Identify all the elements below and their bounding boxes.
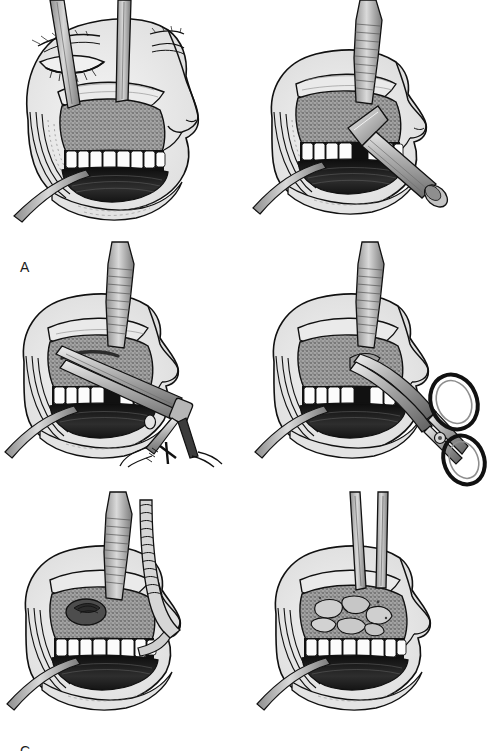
incision-pocket-icon: [66, 599, 106, 625]
panel-d-illustration: [250, 242, 500, 467]
panel-e: E: [0, 492, 250, 742]
panel-c: C: [0, 242, 250, 492]
panel-a: A: [0, 0, 250, 250]
panel-f: F: [250, 492, 500, 742]
retractor-blade-right-icon: [376, 492, 388, 588]
panel-a-illustration: [0, 0, 250, 225]
panel-b: B: [250, 0, 500, 250]
panel-b-illustration: [250, 0, 500, 225]
panel-f-illustration: [250, 492, 500, 717]
panel-e-illustration: [0, 492, 250, 717]
retractor-blade-right-icon: [116, 0, 131, 102]
panel-c-illustration: [0, 242, 250, 467]
panel-label-c: C: [20, 744, 31, 751]
gingiva: [60, 99, 165, 152]
panel-d: D: [250, 242, 500, 492]
surgical-figure: A: [0, 0, 500, 751]
